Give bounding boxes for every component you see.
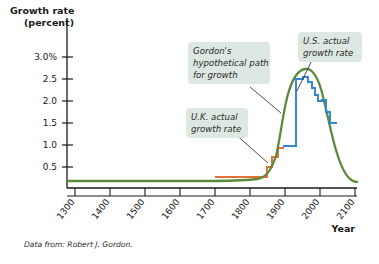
y-axis-title-line1: Growth rate (10, 5, 74, 16)
chart-figure: Growth rate (percent) 3.0% 2.5 2.0 1.5 1… (0, 0, 379, 264)
y-tick-label-2.5: 2.5 (43, 74, 57, 84)
callout-uk-line2: growth rate (191, 124, 241, 134)
callout-uk: U.K. actual growth rate (186, 108, 248, 138)
x-tick-label-1400: 1400 (90, 197, 112, 221)
growth-rate-chart: Growth rate (percent) 3.0% 2.5 2.0 1.5 1… (0, 0, 379, 264)
y-tick-label-3.0: 3.0% (34, 52, 57, 62)
x-tick-label-2000: 2000 (300, 197, 322, 221)
callout-gordon-line3: for growth (193, 70, 238, 80)
x-tick-label-1800: 1800 (230, 197, 252, 221)
callout-uk-line1: U.K. actual (191, 112, 238, 122)
callout-gordon-line1: Gordon's (193, 46, 232, 56)
x-tick-label-1500: 1500 (125, 197, 147, 221)
y-tick-label-1.5: 1.5 (43, 118, 57, 128)
x-tick-label-1700: 1700 (195, 197, 217, 221)
y-tick-label-0.5: 0.5 (43, 162, 57, 172)
x-tick-labels: 1300 1400 1500 1600 1700 1800 1900 2000 … (55, 197, 357, 221)
x-tick-label-1600: 1600 (160, 197, 182, 221)
x-tick-label-2100: 2100 (335, 197, 357, 221)
x-ticks (75, 188, 355, 196)
callout-gordon-line2: hypothetical path (193, 58, 269, 68)
callout-us-line1: U.S. actual (303, 36, 350, 46)
x-tick-label-1300: 1300 (55, 197, 77, 221)
callout-us: U.S. actual growth rate (298, 32, 362, 62)
x-axis-title: Year (330, 223, 355, 234)
y-tick-label-2.0: 2.0 (43, 96, 58, 106)
leader-line-gordon (250, 87, 281, 113)
callout-gordon: Gordon's hypothetical path for growth (188, 42, 270, 84)
callout-us-line2: growth rate (303, 48, 353, 58)
x-tick-label-1900: 1900 (265, 197, 287, 221)
source-note: Data from: Robert J. Gordon. (24, 240, 133, 249)
y-tick-label-1.0: 1.0 (43, 140, 58, 150)
